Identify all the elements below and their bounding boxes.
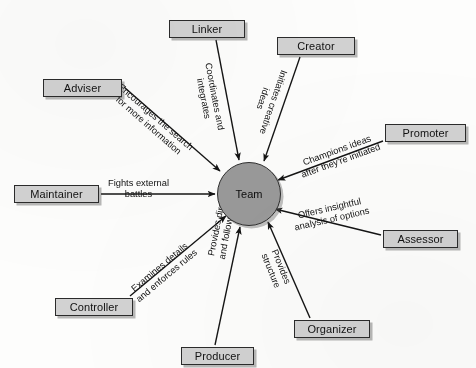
role-node-maintainer[interactable]: Maintainer xyxy=(14,185,99,203)
edge-maintainer-label-line: Fights external xyxy=(108,178,169,189)
role-node-label: Organizer xyxy=(307,323,356,335)
role-node-label: Assessor xyxy=(397,233,443,245)
role-node-label: Promoter xyxy=(402,127,448,139)
hub-node-team[interactable]: Team xyxy=(217,162,281,226)
role-node-producer[interactable]: Producer xyxy=(181,347,254,365)
role-node-controller[interactable]: Controller xyxy=(55,298,133,316)
role-node-linker[interactable]: Linker xyxy=(169,20,245,38)
hub-label: Team xyxy=(236,188,263,200)
role-node-adviser[interactable]: Adviser xyxy=(43,79,122,97)
edge-maintainer-label-line: battles xyxy=(108,189,169,200)
role-node-creator[interactable]: Creator xyxy=(277,37,355,55)
role-node-organizer[interactable]: Organizer xyxy=(294,320,370,338)
edge-maintainer-label: Fights externalbattles xyxy=(108,178,169,200)
role-node-label: Linker xyxy=(192,23,223,35)
role-node-assessor[interactable]: Assessor xyxy=(383,230,458,248)
role-node-label: Creator xyxy=(297,40,334,52)
role-node-label: Adviser xyxy=(64,82,101,94)
role-node-promoter[interactable]: Promoter xyxy=(385,124,466,142)
diagram-canvas: Coordinates andintegratesInitiates creat… xyxy=(0,0,476,368)
role-node-label: Producer xyxy=(195,350,240,362)
role-node-label: Controller xyxy=(70,301,119,313)
role-node-label: Maintainer xyxy=(30,188,82,200)
